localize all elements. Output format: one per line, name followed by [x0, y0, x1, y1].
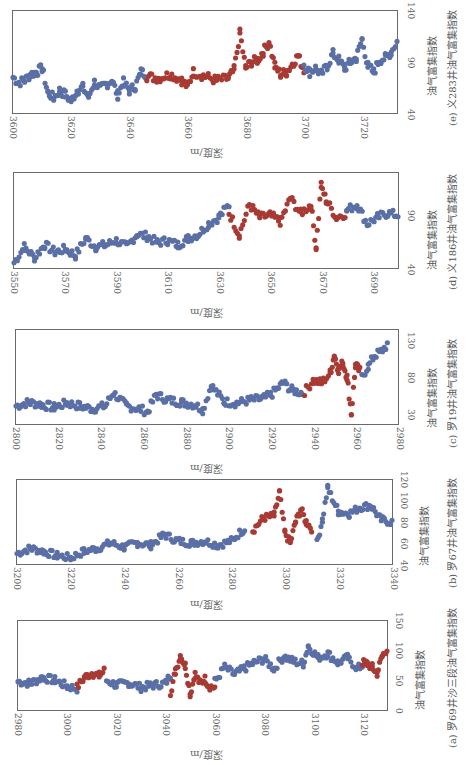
scatter-plot-b: [17, 480, 392, 564]
x-tick-label: 3660: [183, 116, 193, 139]
data-point: [242, 528, 247, 533]
plot-frame-b: [16, 479, 393, 565]
data-point: [45, 680, 50, 685]
data-point: [325, 485, 330, 490]
data-point: [233, 55, 238, 60]
data-point: [37, 251, 42, 256]
x-tick-label: 3680: [242, 116, 252, 139]
data-point: [385, 340, 390, 345]
caption-e: (e) 义283井油气富集指数: [444, 10, 459, 126]
data-point: [73, 256, 78, 261]
data-point: [149, 71, 154, 76]
x-tick-label: 3550: [9, 271, 19, 294]
data-point: [283, 208, 288, 213]
y-tick-label: 140: [406, 2, 416, 19]
data-point: [167, 531, 172, 536]
data-point: [374, 355, 379, 360]
data-point: [360, 209, 365, 214]
data-point: [200, 411, 205, 416]
data-point: [243, 668, 248, 673]
data-point: [297, 53, 302, 58]
data-point: [220, 212, 225, 217]
data-point: [333, 356, 338, 361]
data-point: [245, 65, 250, 70]
data-point: [63, 89, 68, 94]
data-point: [189, 689, 194, 694]
x-tick-label: 2940: [310, 427, 320, 450]
y-tick-label: 100: [399, 492, 409, 509]
scatter-plot-a: [18, 621, 387, 710]
data-point: [307, 647, 312, 652]
data-point: [383, 347, 388, 352]
data-point: [289, 536, 294, 541]
chart-panel-c: 2800282028402860288029002920294029602980…: [0, 320, 467, 460]
data-point: [361, 45, 366, 50]
data-point: [366, 367, 371, 372]
data-point: [307, 386, 312, 391]
scatter-plot-c: [16, 330, 398, 424]
data-point: [76, 685, 81, 690]
data-point: [46, 554, 51, 559]
data-point: [117, 90, 122, 95]
data-point: [395, 214, 400, 219]
data-point: [234, 50, 239, 55]
data-point: [317, 532, 322, 537]
data-point: [342, 215, 347, 220]
chart-panel-e: 3600362036403660368037003720 4090140 油气富…: [0, 0, 467, 160]
x-tick-label: 3640: [125, 116, 135, 139]
data-point: [310, 209, 315, 214]
data-point: [80, 81, 85, 86]
data-point: [45, 88, 50, 93]
data-point: [215, 220, 220, 225]
data-point: [330, 47, 335, 52]
data-point: [321, 512, 326, 517]
data-point: [340, 361, 345, 366]
data-point: [311, 223, 316, 228]
x-tick-label: 3570: [60, 271, 70, 294]
data-point: [12, 75, 17, 80]
data-point: [389, 52, 394, 57]
data-point: [262, 518, 267, 523]
data-point: [344, 372, 349, 377]
chart-panel-b: 32003220324032603280330033203340 4060801…: [0, 470, 467, 610]
data-point: [301, 62, 306, 67]
data-point: [373, 70, 378, 75]
y-axis-label-b: 油气富集指数: [416, 506, 431, 566]
scatter-plot-e: [13, 11, 397, 113]
plot-frame-d: [13, 172, 399, 269]
data-point: [291, 199, 296, 204]
data-point: [155, 396, 160, 401]
y-tick-label: 80: [399, 517, 409, 528]
data-point: [293, 520, 298, 525]
data-point: [239, 38, 244, 43]
data-point: [205, 396, 210, 401]
data-point: [180, 243, 185, 248]
data-point: [41, 67, 46, 72]
data-point: [322, 500, 327, 505]
data-point: [300, 506, 305, 511]
data-point: [169, 688, 174, 693]
data-point: [202, 406, 207, 411]
x-tick-label: 3300: [281, 567, 291, 590]
data-point: [171, 396, 176, 401]
data-point: [347, 514, 352, 519]
chart-panel-a: 29803000302030403060308031003120 0501001…: [0, 612, 467, 765]
data-point: [150, 400, 155, 405]
x-tick-label: 3200: [12, 567, 22, 590]
data-point: [294, 387, 299, 392]
data-point: [320, 186, 325, 191]
x-tick-label: 3080: [260, 713, 270, 736]
data-point: [115, 97, 120, 102]
data-point: [322, 191, 327, 196]
x-tick-label: 3240: [120, 567, 130, 590]
y-tick-label: 40: [399, 560, 409, 571]
data-point: [18, 83, 23, 88]
x-tick-label: 3700: [300, 116, 310, 139]
data-point: [278, 497, 283, 502]
x-tick-label: 3020: [112, 713, 122, 736]
data-point: [22, 80, 27, 85]
x-tick-label: 2960: [352, 427, 362, 450]
data-point: [158, 391, 163, 396]
data-point: [236, 44, 241, 49]
x-tick-label: 3690: [369, 271, 379, 294]
